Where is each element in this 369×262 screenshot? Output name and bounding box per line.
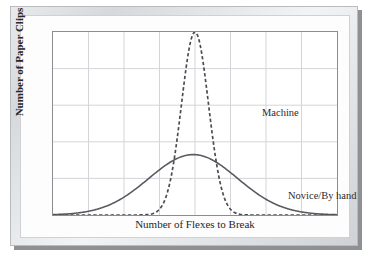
curve-novice-by-hand xyxy=(53,155,337,215)
y-axis-title: Number of Paper Clips xyxy=(13,0,25,137)
x-axis-title: Number of Flexes to Break xyxy=(52,218,338,230)
figure-screenshot: Number of Paper Clips Machine Novice/ xyxy=(0,0,369,262)
plot-area: Machine Novice/By hand xyxy=(52,31,338,216)
series-label-machine: Machine xyxy=(262,107,299,118)
series-label-novice: Novice/By hand xyxy=(288,190,357,201)
curve-machine xyxy=(53,32,337,215)
curves-layer xyxy=(53,32,337,215)
